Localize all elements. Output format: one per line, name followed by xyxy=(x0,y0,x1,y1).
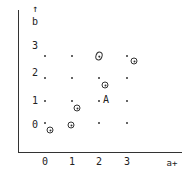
x-tick-2: 2 xyxy=(96,157,102,167)
grid-point xyxy=(71,77,73,79)
x-tick-1: 1 xyxy=(69,157,75,167)
grid-point xyxy=(44,122,46,124)
grid-point xyxy=(44,100,46,102)
circled-point-3-3 xyxy=(131,58,138,65)
x-axis-label: a+ xyxy=(167,158,178,168)
y-tick-3: 3 xyxy=(32,41,38,51)
grid-point xyxy=(98,77,100,79)
x-tick-3: 3 xyxy=(124,157,130,167)
grid-point xyxy=(126,122,128,124)
y-axis-label: b xyxy=(32,17,38,27)
circled-point-1-1 xyxy=(74,105,81,112)
x-axis xyxy=(18,152,182,153)
x-axis-arrow-icon: + xyxy=(172,158,177,168)
grid-point xyxy=(71,100,73,102)
grid-point xyxy=(126,55,128,57)
grid-point xyxy=(71,55,73,57)
grid-point xyxy=(98,122,100,124)
grid-point xyxy=(44,55,46,57)
y-tick-1: 1 xyxy=(32,96,38,106)
y-axis-arrow-icon: ↑ xyxy=(32,4,38,14)
grid-point xyxy=(126,77,128,79)
circled-point-1-0 xyxy=(68,122,75,129)
grid-point xyxy=(44,77,46,79)
y-axis xyxy=(18,10,19,153)
point-a-label: A xyxy=(103,95,109,105)
x-tick-0: 0 xyxy=(42,157,48,167)
grid-point xyxy=(98,100,100,102)
circled-point-2-2 xyxy=(102,82,109,89)
y-tick-0: 0 xyxy=(32,120,38,130)
circled-point-2-3 xyxy=(94,51,104,62)
y-tick-2: 2 xyxy=(32,68,38,78)
circled-point-0-0 xyxy=(47,127,54,134)
grid-point xyxy=(126,100,128,102)
